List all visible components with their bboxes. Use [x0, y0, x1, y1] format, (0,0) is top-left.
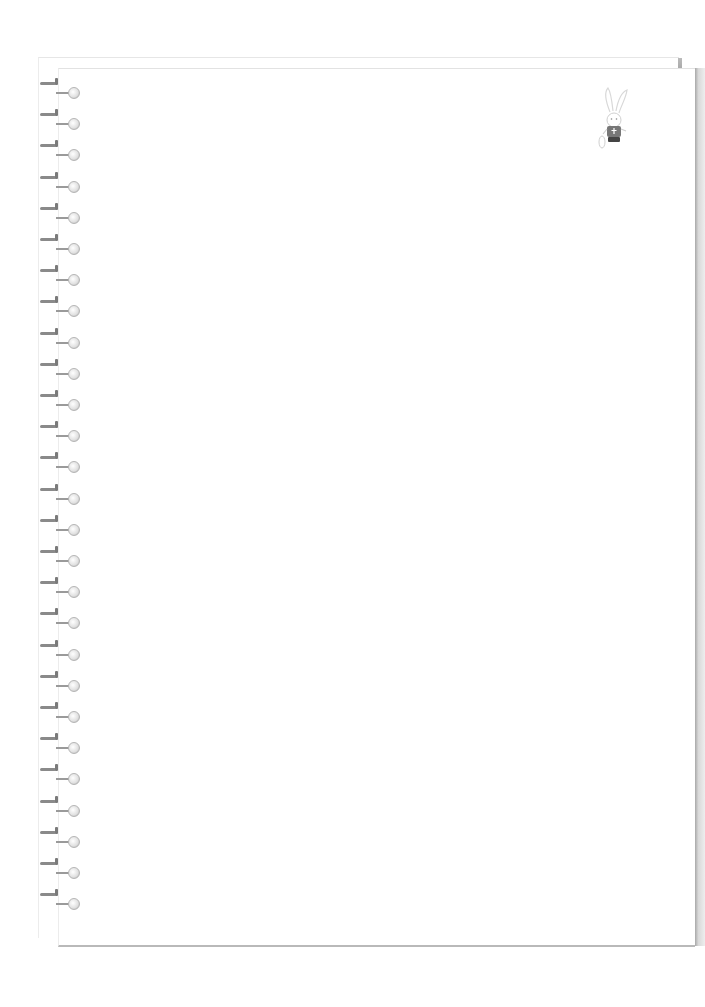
binder-ring-icon [40, 269, 84, 291]
binder-ring-icon [40, 332, 84, 354]
binder-ring-icon [40, 675, 84, 697]
binder-ring-icon [40, 893, 84, 915]
binder-ring-icon [40, 488, 84, 510]
page-edge-shadow [694, 68, 705, 946]
binder-ring-icon [40, 113, 84, 135]
binder-ring-icon [40, 144, 84, 166]
bunny-mascot-icon [594, 84, 634, 156]
binder-ring-icon [40, 425, 84, 447]
binder-ring-icon [40, 82, 84, 104]
binder-ring-icon [40, 644, 84, 666]
binder-ring-icon [40, 581, 84, 603]
binder-ring-icon [40, 238, 84, 260]
binder-ring-icon [40, 768, 84, 790]
binder-ring-icon [40, 363, 84, 385]
binder-ring-icon [40, 550, 84, 572]
binder-ring-icon [40, 456, 84, 478]
binder-ring-icon [40, 737, 84, 759]
front-page [58, 68, 695, 947]
binder-ring-icon [40, 207, 84, 229]
binder-ring-icon [40, 612, 84, 634]
binder-ring-icon [40, 394, 84, 416]
binder-ring-icon [40, 862, 84, 884]
binder-ring-icon [40, 176, 84, 198]
binder-ring-icon [40, 519, 84, 541]
binder-ring-icon [40, 706, 84, 728]
binder-ring-icon [40, 800, 84, 822]
binder-ring-icon [40, 300, 84, 322]
binder-ring-icon [40, 831, 84, 853]
